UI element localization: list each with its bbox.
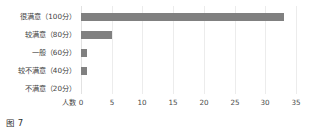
figure-caption: 图 7: [6, 116, 23, 130]
x-axis-title: 人数: [0, 96, 76, 110]
category-label-very-satisfied: 很满意（100分）: [0, 8, 76, 26]
bar-very-satisfied: [81, 13, 284, 21]
bar-track-somewhat-dissatisfied: [81, 62, 302, 80]
category-label-neutral: 一般（60分）: [0, 44, 76, 62]
x-tick-0: 0: [71, 96, 91, 110]
bar-somewhat-dissatisfied: [81, 67, 87, 75]
bar-row: 很满意（100分）: [0, 8, 310, 26]
x-tick-15: 15: [163, 96, 183, 110]
category-label-somewhat-dissatisfied: 较不满意（40分）: [0, 62, 76, 80]
category-label-satisfied: 较满意（80分）: [0, 26, 76, 44]
bar-rows: 很满意（100分） 较满意（80分） 一般（60分） 较不满意（40分）: [0, 8, 310, 98]
bar-row: 较不满意（40分）: [0, 62, 310, 80]
x-tick-35: 35: [286, 96, 306, 110]
figure-container: 很满意（100分） 较满意（80分） 一般（60分） 较不满意（40分）: [0, 0, 310, 136]
x-tick-25: 25: [225, 96, 245, 110]
bar-neutral: [81, 49, 87, 57]
bar-track-neutral: [81, 44, 302, 62]
bar-row: 一般（60分）: [0, 44, 310, 62]
x-axis: 人数 0 5 10 15 20 25 30 35: [0, 96, 310, 110]
x-tick-20: 20: [194, 96, 214, 110]
bar-track-satisfied: [81, 26, 302, 44]
bar-satisfied: [81, 31, 112, 39]
bar-row: 较满意（80分）: [0, 26, 310, 44]
x-tick-10: 10: [132, 96, 152, 110]
x-tick-5: 5: [102, 96, 122, 110]
bar-track-very-satisfied: [81, 8, 302, 26]
x-tick-30: 30: [255, 96, 275, 110]
bar-chart: 很满意（100分） 较满意（80分） 一般（60分） 较不满意（40分）: [0, 0, 310, 110]
